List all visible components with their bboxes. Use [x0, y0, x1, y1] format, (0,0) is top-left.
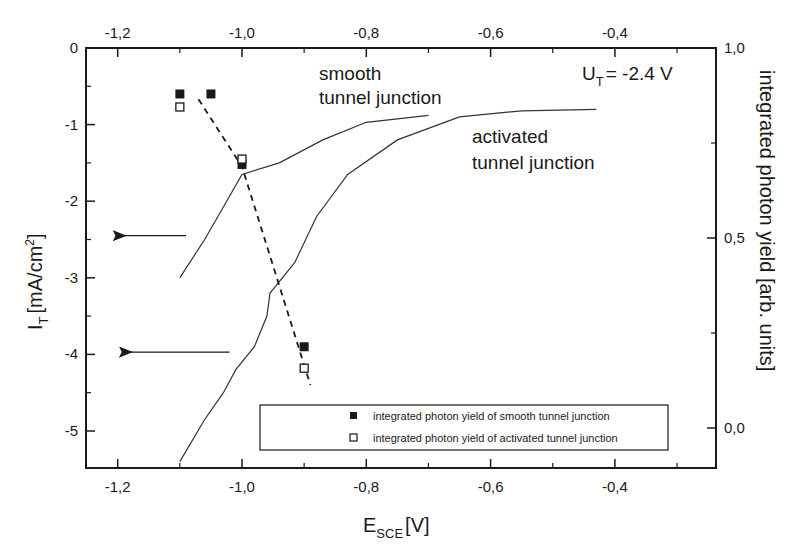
legend-open-square-icon [350, 434, 357, 441]
x-top-tick-label: -1,0 [229, 24, 255, 41]
y-axis-right: 1,00,50,0 [707, 39, 745, 436]
x-top-tick-label: -0,6 [478, 24, 504, 41]
y-tick-label: 0 [70, 39, 78, 56]
legend-label-activated: integrated photon yield of activated tun… [373, 432, 618, 444]
y-tick-label: -2 [65, 192, 78, 209]
axis-arrows [124, 236, 230, 352]
x-tick-label: -0,4 [602, 478, 628, 495]
open-square-marker [300, 364, 308, 372]
filled-square-marker [300, 342, 309, 351]
voltage-annotation: UT= -2.4 V [582, 63, 673, 89]
filled-square-marker [175, 89, 184, 98]
chart-figure: -1,2-1,0-0,8-0,6-0,4 -1,2-1,0-0,8-0,6-0,… [0, 0, 791, 553]
x-tick-label: -0,6 [478, 478, 504, 495]
x-top-tick-label: -0,8 [353, 24, 379, 41]
y-axis-title: IT[mA/cm2] [23, 233, 51, 330]
y2-tick-label: 0,5 [724, 229, 745, 246]
legend-label-smooth: integrated photon yield of smooth tunnel… [373, 410, 610, 422]
y-axis-left: 0-1-2-3-4-5 [65, 39, 95, 439]
x-tick-label: -1,2 [105, 478, 131, 495]
x-axis-bottom: -1,2-1,0-0,8-0,6-0,4 [105, 459, 677, 495]
y-tick-label: -5 [65, 422, 78, 439]
y2-axis-title: integrated photon yield [arb. units] [756, 70, 778, 371]
smooth-label-2: tunnel junction [319, 87, 442, 108]
x-top-tick-label: -0,4 [602, 24, 628, 41]
y-tick-label: -1 [65, 116, 78, 133]
y-tick-label: -3 [65, 269, 78, 286]
activated-label-2: tunnel junction [472, 152, 595, 173]
open-square-marker [238, 155, 246, 163]
legend-filled-square-icon [350, 412, 357, 419]
photon-yield-trend-dashed [199, 99, 311, 385]
y2-tick-label: 1,0 [724, 39, 745, 56]
legend: integrated photon yield of smooth tunnel… [260, 405, 668, 450]
x-tick-label: -1,0 [229, 478, 255, 495]
activated-yield-markers [176, 103, 308, 372]
smooth-yield-markers [175, 89, 308, 351]
x-top-tick-label: -1,2 [105, 24, 131, 41]
x-axis-top: -1,2-1,0-0,8-0,6-0,4 [105, 24, 677, 57]
x-axis-title: ESCE[V] [363, 514, 430, 541]
y2-tick-label: 0,0 [724, 419, 745, 436]
smooth-label-1: smooth [319, 63, 381, 84]
open-square-marker [176, 103, 184, 111]
activated-label-1: activated [472, 126, 548, 147]
x-tick-label: -0,8 [353, 478, 379, 495]
filled-square-marker [206, 89, 215, 98]
y-tick-label: -4 [65, 345, 78, 362]
smooth-junction-curve [180, 115, 429, 277]
